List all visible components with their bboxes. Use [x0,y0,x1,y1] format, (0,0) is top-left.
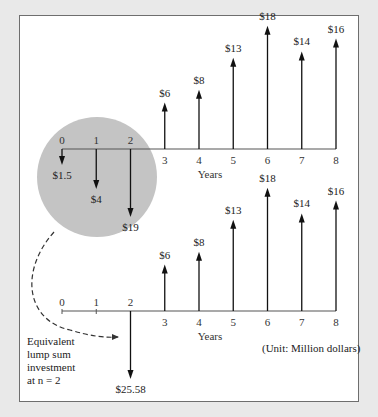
dashed-equivalence-arrow [32,232,118,337]
year-tick-label: 8 [333,154,339,166]
cash-flow-label: $16 [328,185,345,197]
cash-flow-label: $13 [225,42,242,54]
arrow-up-icon [196,252,202,261]
year-tick-label: 1 [94,296,100,308]
year-tick-label: 5 [231,316,237,328]
year-tick-label: 7 [299,316,305,328]
arrowhead-icon [112,334,119,340]
arrow-up-icon [333,39,339,48]
cash-flow-label: $18 [259,172,276,184]
cash-flow-label: $14 [294,197,311,209]
year-tick-label: 1 [94,134,100,146]
year-tick-label: 5 [231,154,237,166]
arrow-up-icon [230,58,236,67]
cash-flow-label: $8 [194,74,206,86]
cash-flow-label: $19 [122,221,139,233]
cash-flow-label: $4 [91,193,103,205]
unit-note: (Unit: Million dollars) [262,342,361,355]
year-tick-label: 0 [59,296,65,308]
year-tick-label: 3 [162,316,168,328]
arrow-up-icon [162,265,168,274]
year-tick-label: 7 [299,154,305,166]
year-tick-label: 4 [196,154,202,166]
year-tick-label: 2 [128,296,134,308]
cash-flow-label: $6 [159,249,171,261]
arrow-up-icon [299,51,305,60]
arrow-up-icon [333,201,339,210]
arrow-up-icon [299,213,305,222]
annotation-line: lump sum [27,348,71,360]
axis-title: Years [198,168,223,180]
cash-flow-label: $16 [328,23,345,35]
cash-flow-label: $6 [159,87,171,99]
year-tick-label: 0 [59,134,65,146]
arrow-up-icon [162,103,168,112]
year-tick-label: 4 [196,316,202,328]
annotation-line: investment [27,361,75,373]
cash-flow-label: $1.5 [52,169,72,181]
arrow-up-icon [265,188,271,197]
annotation-line: at n = 2 [27,374,60,386]
cash-flow-label: $18 [259,10,276,22]
cash-flow-label: $25.58 [115,383,146,395]
annotation-line: Equivalent [27,335,75,347]
year-tick-label: 6 [265,316,271,328]
year-tick-label: 2 [128,134,134,146]
arrow-down-icon [128,370,134,379]
axis-title: Years [198,330,223,342]
year-tick-label: 3 [162,154,168,166]
arrow-up-icon [265,26,271,35]
cash-flow-label: $13 [225,204,242,216]
cash-flow-diagram: 012345678Years$1.5$4$19$6$8$13$18$14$16 … [0,0,378,417]
year-tick-label: 6 [265,154,271,166]
arrow-up-icon [196,90,202,99]
cash-flow-label: $14 [294,35,311,47]
cash-flow-label: $8 [194,236,206,248]
arrow-up-icon [230,220,236,229]
year-tick-label: 8 [333,316,339,328]
